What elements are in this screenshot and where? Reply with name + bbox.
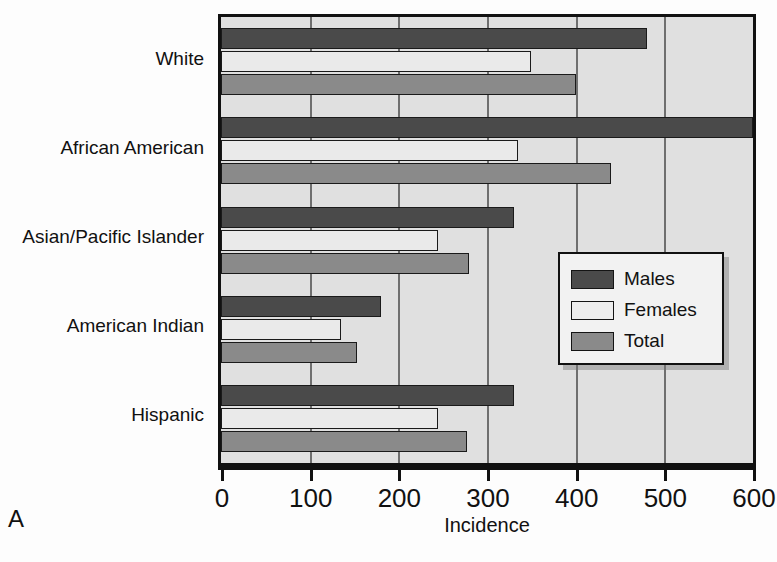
category-label-3: American Indian [67,315,204,337]
plot-area [218,14,756,466]
legend-swatch-males [571,270,614,289]
bar-males-3 [221,296,381,317]
legend-label-females: Females [624,299,697,321]
x-tick [487,470,490,481]
x-tick-label: 600 [732,483,775,514]
x-axis: 0100200300400500600 [218,466,756,470]
legend-swatch-total [571,332,614,351]
bar-females-1 [221,140,518,161]
legend-item-females: Females [571,298,697,322]
bar-total-4 [221,431,467,452]
gridline [664,17,666,463]
x-tick [576,470,579,481]
bar-males-4 [221,385,514,406]
category-label-1: African American [60,137,204,159]
x-tick-label: 100 [289,483,332,514]
bar-males-0 [221,28,647,49]
bar-total-2 [221,253,469,274]
bar-total-3 [221,342,357,363]
legend: MalesFemalesTotal [558,252,724,365]
bar-females-4 [221,408,438,429]
legend-label-males: Males [624,268,675,290]
legend-item-males: Males [571,267,675,291]
category-axis-labels: WhiteAfrican AmericanAsian/Pacific Islan… [0,14,212,466]
x-tick [664,470,667,481]
bar-females-3 [221,319,341,340]
x-tick-label: 200 [378,483,421,514]
gridline [576,17,578,463]
bar-males-2 [221,207,514,228]
x-tick-label: 500 [644,483,687,514]
x-tick [310,470,313,481]
x-tick-label: 400 [555,483,598,514]
legend-item-total: Total [571,329,664,353]
x-tick-label: 300 [466,483,509,514]
panel-letter: A [8,505,24,533]
x-tick-label: 0 [215,483,229,514]
category-label-4: Hispanic [131,404,204,426]
bar-total-0 [221,74,576,95]
bar-females-2 [221,230,438,251]
legend-swatch-females [571,301,614,320]
category-label-0: White [155,48,204,70]
category-label-2: Asian/Pacific Islander [22,226,204,248]
x-axis-title: Incidence [218,514,756,537]
x-tick [398,470,401,481]
figure-panel-a: WhiteAfrican AmericanAsian/Pacific Islan… [0,0,777,562]
bar-males-1 [221,117,753,138]
x-tick [753,470,756,481]
x-tick [221,470,224,481]
bar-females-0 [221,51,531,72]
bar-total-1 [221,163,611,184]
legend-label-total: Total [624,330,664,352]
